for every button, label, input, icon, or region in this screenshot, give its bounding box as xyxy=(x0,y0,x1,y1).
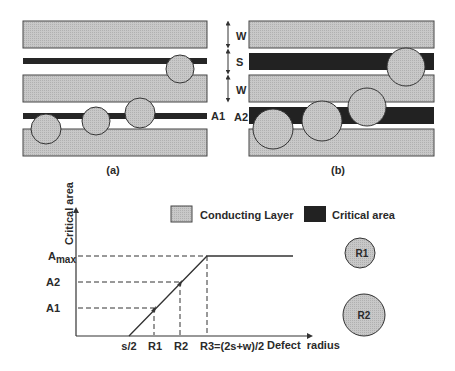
defect-circle xyxy=(253,109,293,149)
conducting-line-top xyxy=(23,21,207,48)
critical-area-diagram: A1 (a) W S W A2 (b) Conducting Layer Cri… xyxy=(0,0,455,371)
legend-swatch-critical xyxy=(304,206,326,222)
defect-circle xyxy=(302,101,342,141)
s-label: S xyxy=(236,56,243,68)
x-axis-label: Defect radius xyxy=(267,339,340,351)
legend-label-critical: Critical area xyxy=(332,209,396,221)
defect-circle xyxy=(125,98,155,128)
dashed-guides xyxy=(78,256,207,335)
x-tick-s2: s/2 xyxy=(121,340,136,352)
dimension-markers: W S W xyxy=(228,23,247,100)
y-axis-label: Critical area xyxy=(63,181,75,245)
area-label-a1: A1 xyxy=(211,110,225,122)
legend-swatch-conducting xyxy=(171,206,192,222)
w-bottom-label: W xyxy=(236,84,247,96)
y-tick-a2: A2 xyxy=(46,276,60,288)
area-label-a2: A2 xyxy=(234,111,248,123)
defect-size-reference: R1 R2 xyxy=(343,238,385,336)
defect-circle xyxy=(166,55,194,83)
x-tick-r3: R3=(2s+w)/2 xyxy=(200,340,264,352)
defect-circle xyxy=(348,88,386,126)
defect-circle xyxy=(82,107,110,135)
y-tick-a1: A1 xyxy=(46,302,60,314)
legend: Conducting Layer Critical area xyxy=(171,206,396,222)
w-top-label: W xyxy=(236,30,247,42)
panel-a-caption: (a) xyxy=(106,164,120,176)
panel-b: A2 (b) xyxy=(234,21,434,176)
defect-circle xyxy=(387,48,425,86)
x-tick-r1: R1 xyxy=(148,340,162,352)
legend-label-conducting: Conducting Layer xyxy=(200,209,294,221)
defect-r2-label: R2 xyxy=(358,310,371,321)
y-tick-amax: Amax xyxy=(48,250,76,265)
conducting-line-top xyxy=(249,21,434,48)
critical-area-chart: Critical area Defect radius Amax A2 A1 s… xyxy=(46,181,340,352)
defect-circle xyxy=(31,114,61,144)
x-tick-r2: R2 xyxy=(174,340,188,352)
defect-r1-label: R1 xyxy=(356,248,369,259)
panel-a: A1 (a) xyxy=(23,21,225,176)
panel-b-caption: (b) xyxy=(331,164,345,176)
